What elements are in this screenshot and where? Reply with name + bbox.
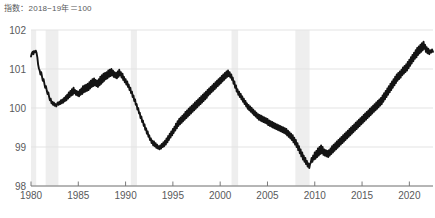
x-axis-tick-label: 1985 (67, 190, 90, 201)
chart-figure: 指数：2018−19年＝100 9899100101102 1980198519… (0, 0, 435, 218)
y-axis-tick-label: 101 (9, 64, 26, 75)
x-axis-tick-labels: 198019851990199520002005201020152020 (20, 190, 421, 201)
y-axis-tick-label: 102 (9, 25, 26, 36)
line-chart-plot: 9899100101102 19801985199019952000200520… (0, 0, 435, 218)
x-axis-tick-label: 1980 (20, 190, 43, 201)
y-axis-tick-labels: 9899100101102 (9, 25, 26, 192)
x-axis-tick-label: 2015 (351, 190, 374, 201)
x-axis-tick-label: 2005 (256, 190, 279, 201)
y-axis-tick-label: 99 (15, 142, 27, 153)
x-axis-tick-label: 2000 (209, 190, 232, 201)
x-axis-tick-label: 2020 (398, 190, 421, 201)
x-axis-tick-label: 1990 (114, 190, 137, 201)
x-axis-tick-label: 1995 (162, 190, 185, 201)
y-axis-tick-label: 100 (9, 103, 26, 114)
x-axis-tick-label: 2010 (304, 190, 327, 201)
